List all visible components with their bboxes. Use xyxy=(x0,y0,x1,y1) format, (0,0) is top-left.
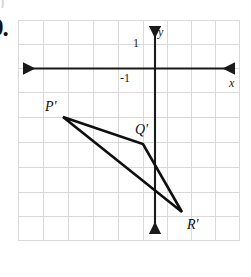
vertex-label-r-prime: R' xyxy=(187,218,199,232)
worksheet-figure-panel: ) 9. xyxy=(0,0,251,277)
coordinate-plane-figure xyxy=(0,0,251,277)
x-axis-label: x xyxy=(229,77,234,89)
grid-background xyxy=(18,20,240,241)
y-tick-label-1: 1 xyxy=(133,37,139,49)
x-tick-label-negative-1: -1 xyxy=(120,72,130,84)
vertex-label-p-prime: P' xyxy=(45,100,57,114)
vertex-label-q-prime: Q' xyxy=(135,123,148,137)
y-axis-label: y xyxy=(158,26,163,38)
